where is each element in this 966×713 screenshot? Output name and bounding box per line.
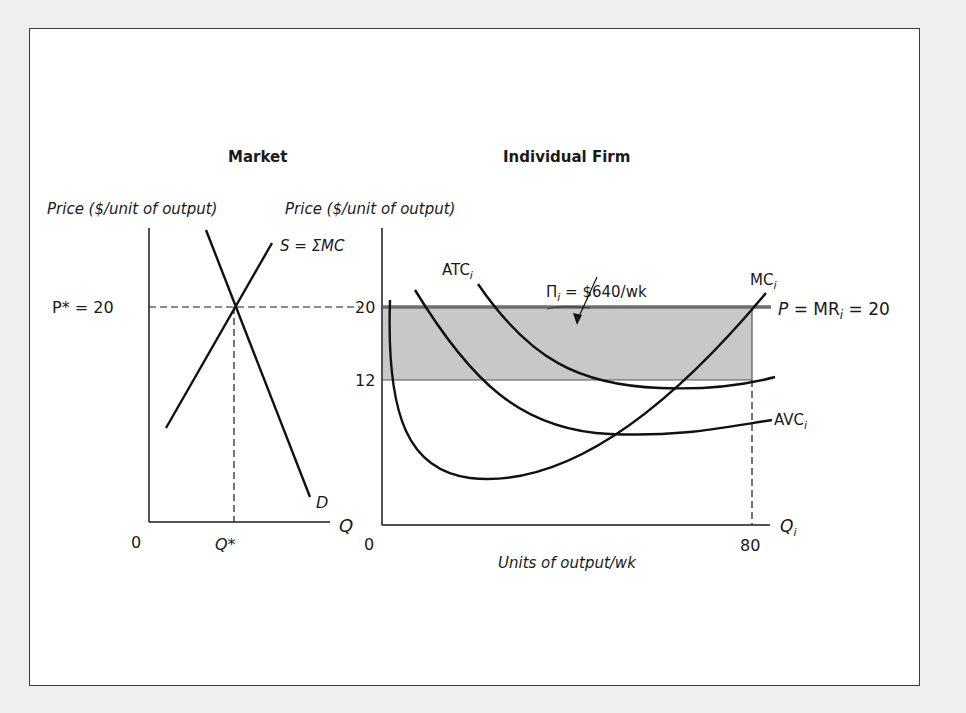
supply-curve [166,243,272,428]
supply-label: S = ΣMC [280,237,345,255]
tick-12: 12 [355,371,375,390]
figure-svg: Market Price ($/unit of output) S = ΣMC … [0,0,966,713]
firm-q-label: Qi [780,516,796,539]
firm-origin-label: 0 [364,535,374,554]
mc-label: MCi [750,271,776,292]
demand-label: D [316,493,328,512]
firm-title: Individual Firm [503,148,630,166]
pstar-label: P* = 20 [52,298,114,317]
firm-panel: Individual Firm Price ($/unit of output)… [285,148,890,572]
demand-curve [206,230,310,497]
firm-y-axis-label: Price ($/unit of output) [285,200,455,218]
profit-label: Πi = $640/wk [546,283,647,304]
tick-80: 80 [740,536,760,555]
price-mr-label: P = MRi = 20 [778,299,890,322]
market-origin-label: 0 [131,533,141,552]
atc-label: ATCi [442,261,473,282]
market-q-label: Q [339,515,353,536]
market-y-axis-label: Price ($/unit of output) [47,200,217,218]
market-title: Market [228,148,287,166]
tick-20: 20 [355,298,375,317]
qstar-label: Q* [215,535,236,554]
firm-x-axis-label: Units of output/wk [498,554,637,572]
avc-label: AVCi [774,411,807,432]
